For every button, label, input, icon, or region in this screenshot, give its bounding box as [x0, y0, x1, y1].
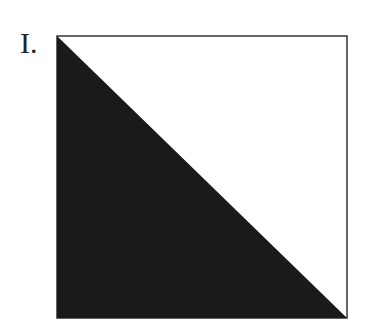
square-diagram — [0, 0, 365, 334]
